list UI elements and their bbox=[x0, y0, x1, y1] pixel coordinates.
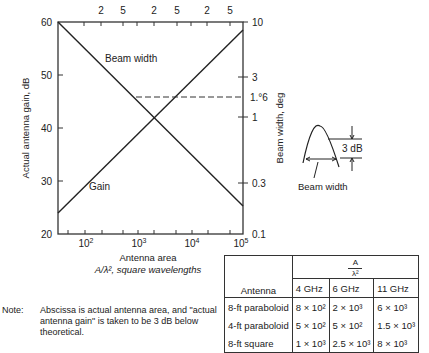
cell: 5 × 10² bbox=[329, 316, 374, 334]
svg-text:3: 3 bbox=[252, 72, 258, 83]
gain-curve-label: Gain bbox=[89, 181, 110, 192]
svg-text:60: 60 bbox=[41, 17, 53, 28]
svg-text:0.1: 0.1 bbox=[252, 229, 266, 240]
svg-text:102: 102 bbox=[78, 237, 93, 249]
x-axis-title-line2: A/λ², square wavelengths bbox=[94, 264, 202, 275]
inset-3db-label: 3 dB bbox=[342, 143, 363, 154]
cell: 8 × 10² bbox=[292, 298, 329, 317]
svg-text:2: 2 bbox=[204, 5, 210, 16]
svg-text:1: 1 bbox=[252, 112, 258, 123]
fraction-numerator: A bbox=[353, 259, 358, 267]
svg-text:40: 40 bbox=[41, 123, 53, 134]
cell: 5 × 10² bbox=[292, 316, 329, 334]
table-row: 8-ft paraboloid 8 × 10² 2 × 10³ 6 × 10³ bbox=[225, 298, 419, 317]
cell: 1 × 10³ bbox=[292, 334, 329, 353]
svg-text:105: 105 bbox=[233, 237, 248, 249]
beam-width-curve-label: Beam width bbox=[105, 53, 157, 64]
footnote-lead: Note: bbox=[2, 305, 24, 316]
svg-text:5: 5 bbox=[120, 5, 126, 16]
svg-text:0.3: 0.3 bbox=[252, 178, 266, 189]
y-axis-right-title: Beam width, deg bbox=[274, 93, 285, 164]
table-header-6ghz: 6 GHz bbox=[329, 279, 374, 298]
svg-text:2: 2 bbox=[98, 5, 104, 16]
svg-text:50: 50 bbox=[41, 70, 53, 81]
table-row: 4-ft paraboloid 5 × 10² 5 × 10² 1.5 × 10… bbox=[225, 316, 419, 334]
row-label: 8-ft square bbox=[225, 334, 293, 353]
table-header-fraction: A λ² bbox=[292, 256, 418, 279]
table-header-11ghz: 11 GHz bbox=[374, 279, 419, 298]
cell: 2.5 × 10³ bbox=[329, 334, 374, 353]
left-axis-labels: 60 50 40 30 20 bbox=[41, 17, 53, 240]
cell: 8 × 10³ bbox=[374, 334, 419, 353]
svg-text:2: 2 bbox=[151, 5, 157, 16]
beam-width-line bbox=[58, 22, 243, 206]
right-axis-labels: 10 3 1.°6 1 0.3 0.1 bbox=[250, 17, 268, 240]
y-axis-left-title: Actual antenna gain, dB bbox=[20, 78, 31, 179]
x-axis-title-line1: Antenna area bbox=[119, 252, 177, 263]
cell: 1.5 × 10³ bbox=[374, 316, 419, 334]
svg-text:30: 30 bbox=[41, 176, 53, 187]
svg-text:5: 5 bbox=[227, 5, 233, 16]
top-axis-labels: 2 5 2 5 2 5 bbox=[98, 5, 233, 16]
svg-text:10: 10 bbox=[252, 17, 264, 28]
svg-text:103: 103 bbox=[131, 237, 146, 249]
table-row: 8-ft square 1 × 10³ 2.5 × 10³ 8 × 10³ bbox=[225, 334, 419, 353]
svg-text:5: 5 bbox=[174, 5, 180, 16]
footnote-body: Abscissa is actual antenna area, and "ac… bbox=[40, 305, 225, 338]
bottom-axis-labels: 102 103 104 105 bbox=[78, 237, 248, 249]
svg-text:20: 20 bbox=[41, 229, 53, 240]
table-header-4ghz: 4 GHz bbox=[292, 279, 329, 298]
svg-text:1.°6: 1.°6 bbox=[250, 92, 268, 103]
table-header-antenna: Antenna bbox=[225, 256, 293, 298]
inset-beam-width-label: Beam width bbox=[298, 181, 348, 192]
antenna-area-table: Antenna A λ² 4 GHz 6 GHz 11 GHz 8-ft par… bbox=[224, 255, 419, 353]
row-label: 8-ft paraboloid bbox=[225, 298, 293, 317]
left-axis-ticks bbox=[58, 75, 63, 181]
fraction-denominator: λ² bbox=[352, 270, 359, 278]
svg-text:104: 104 bbox=[184, 237, 199, 249]
cell: 2 × 10³ bbox=[329, 298, 374, 317]
cell: 6 × 10³ bbox=[374, 298, 419, 317]
row-label: 4-ft paraboloid bbox=[225, 316, 293, 334]
